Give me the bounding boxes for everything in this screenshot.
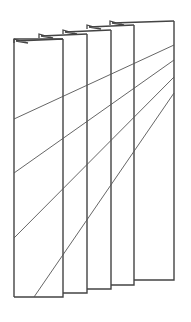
folded-panels-diagram [0,0,191,322]
panel-group [14,21,174,297]
